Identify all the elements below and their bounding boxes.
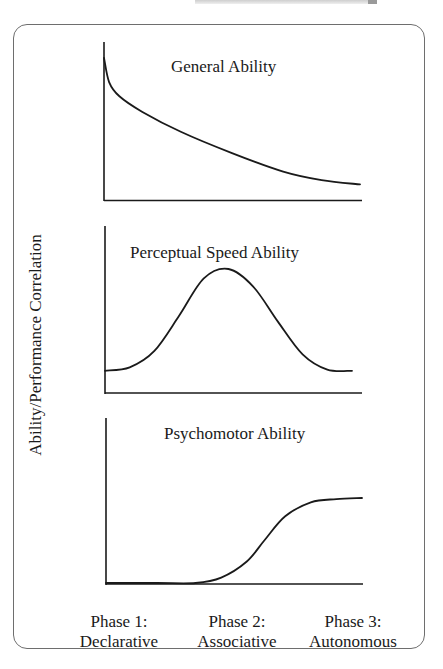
- phase-3-label: Phase 3: Autonomous: [298, 612, 408, 652]
- psychomotor-curve: [106, 498, 362, 583]
- phase-1-label: Phase 1: Declarative: [64, 612, 174, 652]
- phase-2-name: Associative: [182, 632, 292, 652]
- phase-1-number: Phase 1:: [64, 612, 174, 632]
- y-axis-label: Ability/Performance Correlation: [26, 234, 46, 455]
- panel-1-title: General Ability: [171, 57, 276, 77]
- phase-2-number: Phase 2:: [182, 612, 292, 632]
- panel-2-title: Perceptual Speed Ability: [130, 243, 299, 263]
- phase-1-name: Declarative: [64, 632, 174, 652]
- phase-2-label: Phase 2: Associative: [182, 612, 292, 652]
- figure-plots: [0, 0, 443, 669]
- panel-3-title: Psychomotor Ability: [164, 424, 305, 444]
- phase-3-number: Phase 3:: [298, 612, 408, 632]
- phase-3-name: Autonomous: [298, 632, 408, 652]
- perceptual-speed-curve: [105, 269, 352, 372]
